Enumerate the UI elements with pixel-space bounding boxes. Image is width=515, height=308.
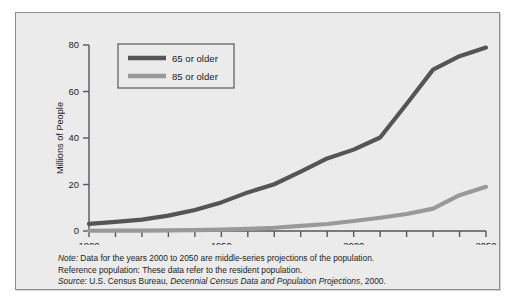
y-tick-label: 80: [69, 39, 79, 50]
caption-source-label: Source:: [58, 276, 87, 286]
caption-source-line: Source: U.S. Census Bureau, Decennial Ce…: [58, 276, 488, 288]
y-tick-label: 40: [69, 132, 79, 143]
caption-reference-line: Reference population: These data refer t…: [58, 265, 488, 277]
chart-legend: 65 or older85 or older: [118, 44, 234, 88]
y-axis-title: Millions of People: [55, 102, 65, 174]
x-tick-label: 1900: [79, 240, 100, 245]
caption-note-line: Note: Data for the years 2000 to 2050 ar…: [58, 253, 488, 265]
line-chart-svg: 020406080 1900195020002050 Millions of P…: [16, 13, 501, 245]
y-tick-label: 0: [74, 225, 79, 236]
caption-source-text: U.S. Census Bureau,: [87, 276, 170, 286]
caption-reference-label: Reference population:: [58, 265, 140, 275]
chart-plot-area: 020406080 1900195020002050 Millions of P…: [16, 13, 501, 245]
figure-caption: Note: Data for the years 2000 to 2050 ar…: [58, 253, 488, 288]
caption-source-year: , 2000.: [360, 276, 386, 286]
chart-series-line: [89, 187, 486, 231]
caption-note-text: Data for the years 2000 to 2050 are midd…: [78, 253, 374, 263]
caption-source-title: Decennial Census Data and Population Pro…: [170, 276, 360, 286]
x-tick-label: 2050: [476, 240, 497, 245]
x-tick-label: 1950: [211, 240, 232, 245]
y-axis-ticks: [83, 45, 89, 231]
caption-reference-text: These data refer to the resident populat…: [140, 265, 302, 275]
y-tick-label: 20: [69, 179, 79, 190]
x-axis-tick-labels: 1900195020002050: [79, 240, 497, 245]
legend-label: 65 or older: [172, 53, 219, 64]
legend-label: 85 or older: [172, 71, 219, 82]
figure-panel: 020406080 1900195020002050 Millions of P…: [15, 12, 500, 290]
y-tick-label: 60: [69, 86, 79, 97]
caption-note-label: Note:: [58, 253, 78, 263]
y-axis-tick-labels: 020406080: [69, 39, 79, 236]
x-tick-label: 2000: [343, 240, 364, 245]
